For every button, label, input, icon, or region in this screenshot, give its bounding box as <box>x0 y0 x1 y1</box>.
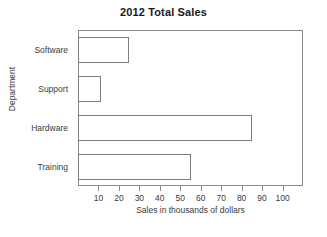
y-axis-label-hardware: Hardware <box>31 123 68 133</box>
x-tick-label-30: 30 <box>135 193 144 203</box>
y-axis-title: Department <box>7 54 17 124</box>
bar-support <box>78 76 101 102</box>
x-tick-label-80: 80 <box>237 193 246 203</box>
x-tick-label-10: 10 <box>94 193 103 203</box>
x-tick-mark-40 <box>160 186 161 191</box>
x-axis-title: Sales in thousands of dollars <box>78 205 303 215</box>
bars-layer <box>78 30 303 186</box>
x-tick-label-90: 90 <box>257 193 266 203</box>
x-tick-label-60: 60 <box>196 193 205 203</box>
x-tick-mark-100 <box>283 186 284 191</box>
x-tick-mark-20 <box>119 186 120 191</box>
x-tick-mark-50 <box>180 186 181 191</box>
x-tick-mark-70 <box>221 186 222 191</box>
x-tick-mark-60 <box>201 186 202 191</box>
y-axis-label-software: Software <box>34 45 68 55</box>
x-tick-label-40: 40 <box>155 193 164 203</box>
y-axis-label-support: Support <box>38 84 68 94</box>
y-axis-label-training: Training <box>38 162 68 172</box>
x-tick-mark-10 <box>98 186 99 191</box>
x-tick-mark-90 <box>262 186 263 191</box>
x-tick-label-20: 20 <box>114 193 123 203</box>
x-tick-mark-30 <box>139 186 140 191</box>
x-tick-label-100: 100 <box>275 193 289 203</box>
x-tick-label-70: 70 <box>216 193 225 203</box>
bar-software <box>78 37 129 63</box>
chart-title: 2012 Total Sales <box>0 6 327 18</box>
x-tick-mark-80 <box>242 186 243 191</box>
x-tick-label-50: 50 <box>176 193 185 203</box>
bar-chart: 2012 Total Sales SoftwareSupportHardware… <box>0 0 327 237</box>
bar-training <box>78 154 191 180</box>
bar-hardware <box>78 115 252 141</box>
